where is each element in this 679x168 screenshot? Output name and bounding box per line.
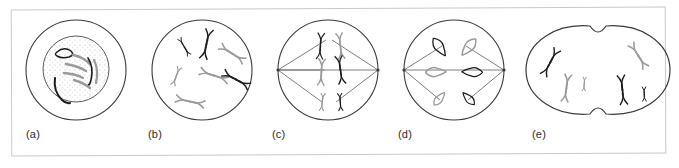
chromosomes [170,28,251,108]
chromosomes [316,32,346,111]
panel-e-telophase: (e) [518,14,668,144]
spindle-pole-left [402,68,405,71]
panel-d-label: (d) [398,128,412,140]
panel-e-label: (e) [532,128,546,140]
panel-d-anaphase: (d) [392,14,520,144]
spindle-fibres [278,40,378,102]
panel-a-interphase: (a) [14,14,144,144]
chromatids [425,35,483,107]
panel-c-metaphase: (c) [266,14,394,144]
cell-membrane [152,20,252,120]
panel-a-label: (a) [26,128,40,140]
spindle-pole-left [276,68,279,71]
chromosomes-left-daughter [540,47,587,102]
spindle-pole-right [502,68,505,71]
nuclear-envelope [43,36,109,102]
panel-b-label: (b) [148,128,162,140]
dividing-cell-membrane [526,26,670,115]
spindle-pole-right [376,68,379,71]
mitosis-figure: (a) [0,0,679,168]
spindle-fibres [404,46,504,100]
panel-b-prophase: (b) [142,14,268,144]
chromosomes-right-daughter [617,42,649,106]
panel-c-label: (c) [272,128,285,140]
